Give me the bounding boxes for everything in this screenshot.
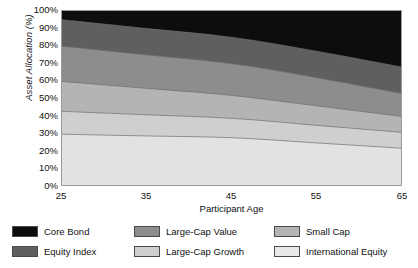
stacked-area-series [62,11,402,186]
legend-item-large-cap-growth: Large-Cap Growth [134,246,274,257]
legend-swatch-international-equity [274,246,300,257]
y-tick-30: 30% [24,128,58,138]
legend-label-core-bond: Core Bond [44,226,89,237]
legend-item-equity-index: Equity Index [12,246,134,257]
y-tick-100: 100% [24,5,58,15]
x-tick-65: 65 [382,190,418,201]
legend-item-international-equity: International Equity [274,246,406,257]
y-tick-10: 10% [24,163,58,173]
legend-swatch-equity-index [12,246,38,257]
y-tick-60: 60% [24,75,58,85]
legend-label-equity-index: Equity Index [44,246,96,257]
y-tick-90: 90% [24,23,58,33]
legend-item-large-cap-value: Large-Cap Value [134,226,274,237]
legend-label-small-cap: Small Cap [306,226,350,237]
legend-swatch-small-cap [274,226,300,237]
x-tick-45: 45 [211,190,251,201]
legend-label-international-equity: International Equity [306,246,387,257]
y-tick-70: 70% [24,58,58,68]
x-tick-35: 35 [126,190,166,201]
x-axis-title: Participant Age [61,203,402,214]
legend-label-large-cap-growth: Large-Cap Growth [166,246,244,257]
legend-label-large-cap-value: Large-Cap Value [166,226,237,237]
legend-swatch-large-cap-growth [134,246,160,257]
asset-allocation-glidepath-chart: Asset Allocation (%) 100% 90% 80% 70% 60… [0,0,418,268]
plot-area [61,10,402,186]
legend-item-core-bond: Core Bond [12,226,134,237]
legend-swatch-large-cap-value [134,226,160,237]
legend-swatch-core-bond [12,226,38,237]
y-tick-40: 40% [24,111,58,121]
x-tick-55: 55 [296,190,336,201]
chart-legend: Core Bond Large-Cap Value Small Cap Equi… [12,221,406,261]
y-tick-20: 20% [24,146,58,156]
y-tick-80: 80% [24,40,58,50]
y-tick-50: 50% [24,93,58,103]
x-tick-25: 25 [41,190,81,201]
legend-item-small-cap: Small Cap [274,226,406,237]
